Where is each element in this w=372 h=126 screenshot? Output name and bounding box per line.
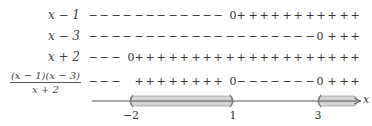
- number-line: [0, 0, 372, 126]
- tick-label-1: 1: [230, 109, 237, 122]
- tick-label-neg2: −2: [123, 109, 139, 122]
- axis-variable-label: x: [363, 93, 369, 106]
- tick-label-3: 3: [315, 109, 322, 122]
